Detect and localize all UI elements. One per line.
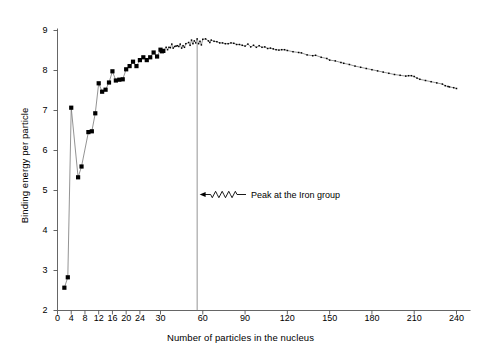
x-tick-label: 30	[141, 313, 181, 323]
x-tick-label: 240	[437, 313, 477, 323]
data-point-small	[419, 79, 421, 81]
y-tick-label: 9	[24, 25, 48, 35]
data-point-small	[256, 47, 258, 49]
data-point-small	[453, 87, 455, 89]
data-point-small	[425, 80, 427, 82]
data-point-small	[399, 75, 401, 77]
data-point-large	[66, 275, 70, 279]
data-point-large	[110, 69, 114, 73]
data-point-small	[188, 42, 190, 44]
data-point-large	[103, 88, 107, 92]
data-point-large	[69, 106, 73, 110]
data-point-small	[198, 43, 200, 45]
data-point-small	[225, 43, 227, 45]
data-point-small	[168, 47, 170, 49]
data-point-small	[270, 47, 272, 49]
y-tick-label: 5	[24, 185, 48, 195]
data-point-small	[411, 75, 413, 77]
x-tick-label: 120	[267, 313, 307, 323]
data-markers	[62, 38, 457, 290]
data-point-small	[444, 85, 446, 87]
data-point-small	[185, 43, 187, 45]
data-point-small	[329, 59, 331, 61]
x-axis-title: Number of particles in the nucleus	[0, 332, 481, 343]
data-point-small	[442, 83, 444, 85]
data-point-small	[174, 46, 176, 48]
data-point-small	[236, 44, 238, 46]
data-point-large	[90, 129, 94, 133]
data-point-small	[312, 55, 314, 57]
data-point-small	[315, 55, 317, 57]
data-point-small	[253, 45, 255, 47]
y-tick-label: 7	[24, 105, 48, 115]
data-point-small	[405, 75, 407, 77]
data-point-small	[196, 38, 198, 40]
arrow-head-icon	[200, 192, 206, 197]
data-point-large	[76, 175, 80, 179]
y-tick-label: 8	[24, 65, 48, 75]
data-point-small	[175, 45, 177, 47]
data-point-small	[192, 43, 194, 45]
data-point-small	[287, 50, 289, 52]
iron-group-annotation-label: Peak at the Iron group	[251, 190, 340, 200]
data-point-large	[134, 64, 138, 68]
data-point-small	[208, 40, 210, 42]
axes	[58, 29, 471, 311]
data-point-small	[281, 49, 283, 51]
data-point-small	[213, 41, 215, 43]
data-point-small	[178, 46, 180, 48]
data-point-small	[230, 42, 232, 44]
data-point-small	[199, 41, 201, 43]
data-point-small	[273, 48, 275, 50]
data-point-large	[121, 77, 125, 81]
data-point-large	[128, 64, 132, 68]
data-point-small	[301, 52, 303, 54]
data-point-small	[210, 39, 212, 41]
data-point-small	[172, 47, 174, 49]
data-point-small	[278, 49, 280, 51]
data-point-small	[394, 74, 396, 76]
data-point-small	[377, 70, 379, 72]
data-point-small	[170, 47, 172, 49]
data-point-small	[360, 67, 362, 69]
y-tick-label: 6	[24, 145, 48, 155]
data-point-small	[340, 62, 342, 64]
data-point-small	[436, 82, 438, 84]
x-tick-label: 90	[225, 313, 265, 323]
data-point-large	[161, 49, 165, 53]
data-point-small	[326, 58, 328, 60]
data-point-small	[388, 73, 390, 75]
data-point-large	[148, 55, 152, 59]
data-point-small	[177, 45, 179, 47]
data-point-small	[456, 88, 458, 90]
data-point-small	[209, 42, 211, 44]
data-point-small	[182, 45, 184, 47]
data-point-large	[97, 81, 101, 85]
x-tick-label: 60	[183, 313, 223, 323]
binding-energy-curve	[64, 39, 456, 288]
data-point-small	[447, 86, 449, 88]
data-point-small	[244, 45, 246, 47]
data-point-small	[382, 71, 384, 73]
binding-energy-chart: Number of particles in the nucleus Bindi…	[0, 0, 481, 353]
data-point-small	[261, 47, 263, 49]
data-point-small	[194, 40, 196, 42]
chart-canvas	[0, 0, 481, 353]
data-point-large	[62, 286, 66, 290]
data-point-large	[155, 54, 159, 58]
data-point-small	[179, 43, 181, 45]
data-point-small	[408, 75, 410, 77]
data-point-small	[195, 42, 197, 44]
data-point-small	[165, 47, 167, 49]
data-point-small	[264, 46, 266, 48]
data-point-small	[222, 42, 224, 44]
data-point-small	[292, 51, 294, 53]
x-tick-label: 210	[394, 313, 434, 323]
data-point-small	[354, 65, 356, 67]
data-point-small	[250, 46, 252, 48]
data-point-small	[267, 48, 269, 50]
data-point-large	[79, 164, 83, 168]
x-tick-label: 180	[352, 313, 392, 323]
data-point-small	[201, 44, 203, 46]
wavy-arrow-shaft	[204, 191, 246, 197]
